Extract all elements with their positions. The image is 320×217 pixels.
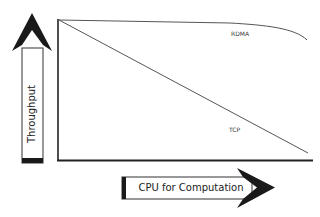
x-arrow-base-bar [122,177,126,199]
tcp-line [59,20,308,153]
rdma-curve-label: RDMA [231,30,249,37]
tcp-curve-label: TCP [229,126,240,133]
rdma-curve [59,20,307,40]
x-axis-label: CPU for Computation [131,181,251,195]
y-axis-label: Throughput [26,84,38,144]
y-arrow-base-bar [22,158,43,163]
y-arrow-head-icon [12,13,52,51]
